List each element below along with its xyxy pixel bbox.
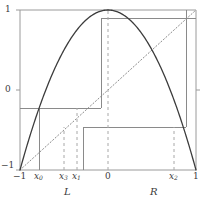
x-tick-x2-sub: 2 (174, 174, 178, 181)
region-label-L: L (64, 186, 71, 197)
dashed-guides (64, 10, 174, 170)
x-tick-x0-sub: 0 (39, 174, 43, 181)
cobweb-figure: 1 0 −1 −1 x0 x3 x1 0 x2 1 L R (0, 0, 211, 204)
y-tick-label-minus1: −1 (1, 161, 14, 170)
x-tick-label-zero: 0 (105, 172, 111, 181)
x-tick-label-x0: x0 (34, 172, 43, 181)
x-tick-x3-sub: 3 (64, 174, 68, 181)
x-tick-label-minus1: −1 (13, 172, 26, 181)
y-tick-label-1: 1 (5, 5, 11, 14)
region-label-R: R (150, 186, 158, 197)
y-tick-label-0: 0 (5, 85, 11, 94)
x-tick-label-x3: x3 (59, 172, 68, 181)
x-tick-label-x2: x2 (169, 172, 178, 181)
x-tick-label-x1: x1 (72, 172, 81, 181)
x-tick-x1-sub: 1 (77, 174, 81, 181)
x-tick-label-1: 1 (193, 172, 199, 181)
